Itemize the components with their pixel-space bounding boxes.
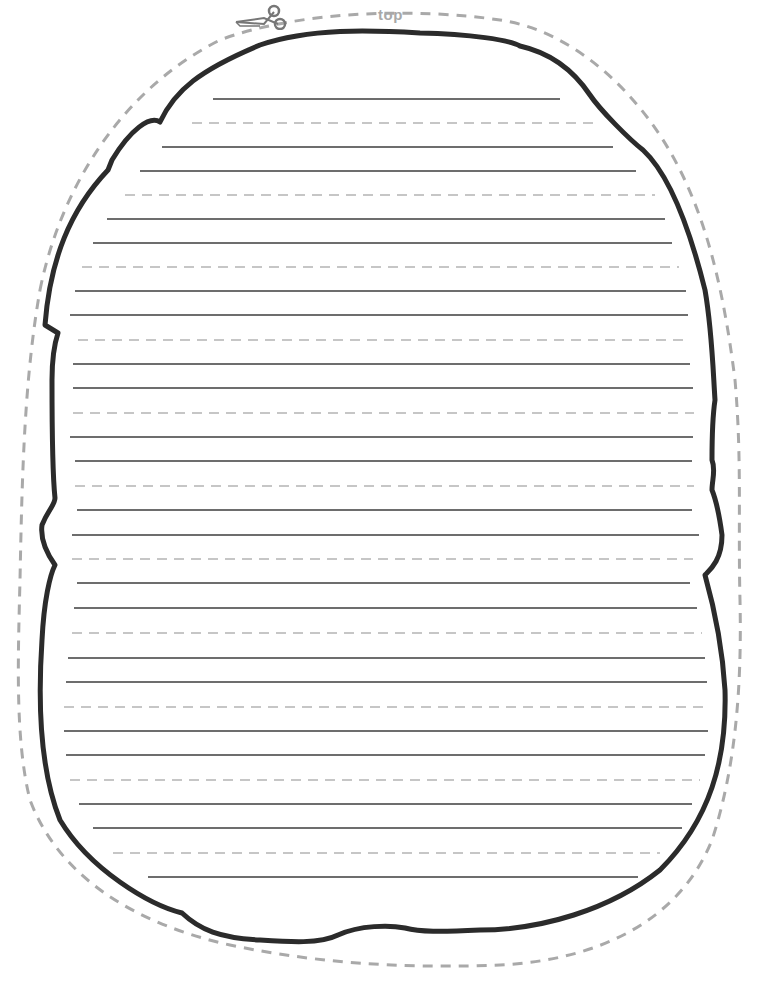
- potato-shaped-writing-sheet: [0, 0, 778, 988]
- scissors-icon: [234, 4, 288, 30]
- top-label: top: [378, 6, 403, 23]
